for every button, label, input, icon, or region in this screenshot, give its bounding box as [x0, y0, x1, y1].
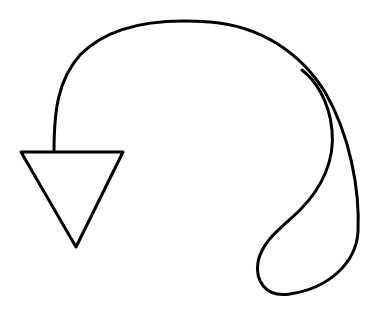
arrow-head — [21, 152, 123, 247]
curved-arrow-icon — [0, 0, 383, 316]
